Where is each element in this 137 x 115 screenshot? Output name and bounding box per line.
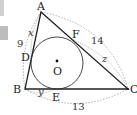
label-d: D	[21, 51, 30, 64]
center-point-o	[56, 60, 59, 63]
length-ab: 9	[17, 38, 23, 49]
vertex-c-dot	[127, 88, 129, 90]
label-y: y	[37, 86, 44, 97]
length-ac: 14	[91, 35, 104, 46]
label-e: E	[52, 91, 60, 104]
length-bc: 13	[72, 101, 85, 112]
incircle-diagram: A B C D E F O x y z 9 14 13	[0, 0, 137, 115]
label-f: F	[72, 28, 80, 41]
incircle	[31, 37, 83, 89]
label-x: x	[28, 27, 34, 38]
label-z: z	[101, 53, 108, 64]
cropped-scrollbar-fragment	[0, 0, 4, 16]
label-a: A	[36, 0, 46, 13]
label-o: O	[53, 65, 62, 78]
label-b: B	[13, 83, 21, 96]
diagram-canvas: A B C D E F O x y z 9 14 13	[0, 0, 137, 115]
label-c: C	[130, 83, 137, 96]
cropped-icon-fragment	[0, 26, 8, 40]
